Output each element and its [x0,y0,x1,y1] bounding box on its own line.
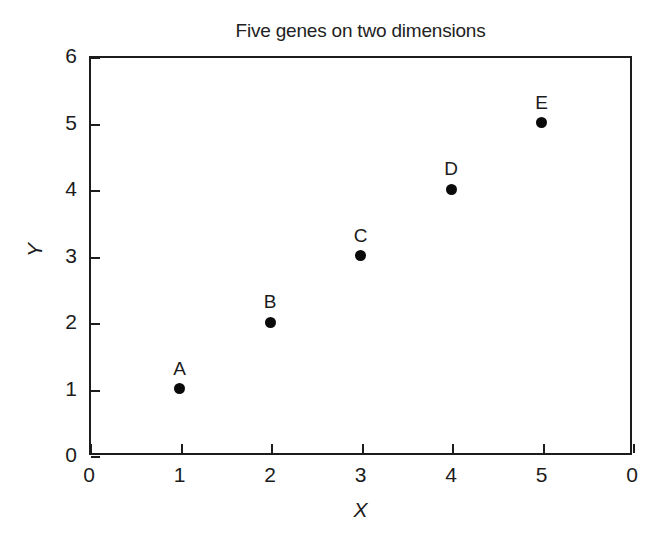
data-point [446,184,457,195]
y-axis-tick [91,57,100,59]
x-axis-tick-label: 1 [160,463,200,487]
data-point-label: B [250,292,290,312]
chart-title: Five genes on two dimensions [89,20,632,42]
scatter-plot-figure: Five genes on two dimensions X Y 0123450… [0,0,669,539]
x-axis-label: X [89,498,632,522]
x-axis-tick [181,444,183,453]
data-point [536,117,547,128]
y-axis-label: Y [23,227,47,273]
data-point-label: D [431,159,471,179]
data-point [265,317,276,328]
x-axis-tick [452,444,454,453]
y-axis-tick [91,323,100,325]
y-axis-tick [91,456,100,458]
y-axis-tick-label: 2 [49,310,77,334]
data-point [355,250,366,261]
x-axis-tick-label: 0 [612,463,652,487]
y-axis-tick-label: 3 [49,244,77,268]
y-axis-tick-label: 6 [49,44,77,68]
y-axis-tick-label: 1 [49,377,77,401]
x-axis-tick [90,444,92,453]
y-axis-tick [91,390,100,392]
data-point [174,383,185,394]
y-axis-tick [91,257,100,259]
y-axis-tick [91,190,100,192]
x-axis-tick-label: 3 [341,463,381,487]
data-point-label: A [160,359,200,379]
x-axis-tick [271,444,273,453]
y-axis-tick [91,124,100,126]
x-axis-tick [633,444,635,453]
y-axis-tick-label: 0 [49,443,77,467]
x-axis-tick-label: 5 [522,463,562,487]
x-axis-tick [543,444,545,453]
x-axis-tick-label: 4 [431,463,471,487]
x-axis-tick-label: 2 [250,463,290,487]
y-axis-tick-label: 4 [49,177,77,201]
x-axis-tick [362,444,364,453]
y-axis-tick-label: 5 [49,111,77,135]
data-point-label: E [522,93,562,113]
data-point-label: C [341,226,381,246]
